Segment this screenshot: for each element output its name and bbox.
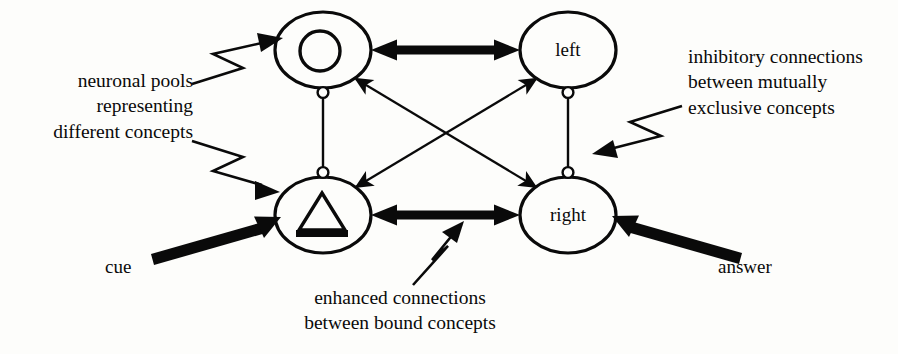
pointer-enhanced [413,221,464,285]
node-label-left: left [528,38,608,63]
connection-triangle-right-excitatory[interactable] [371,205,520,226]
connection-moon-triangle-inhibitory[interactable] [318,87,329,178]
connection-moon-left-excitatory[interactable] [371,40,520,61]
pointer-different-concepts [192,141,280,200]
pointer-neuronal-pools [192,33,283,84]
node-label-right: right [528,203,608,228]
label-answer: answer [718,255,818,280]
node-outline [275,177,371,253]
annotation-inhibitory-connections: inhibitory connections between mutually … [688,44,898,120]
inhibitory-terminal-icon [318,87,329,98]
node-moon-pool[interactable] [275,12,371,88]
pointer-inhibitory [592,106,682,158]
node-triangle-pool[interactable] [275,177,371,253]
node-outline [275,12,371,88]
annotation-enhanced-connections: enhanced connections between bound conce… [250,285,550,336]
annotation-neuronal-pools: neuronal pools representing different co… [8,68,193,144]
connection-left-right-inhibitory[interactable] [563,87,574,178]
figure-canvas: left right neuronal pools representing d… [0,0,898,354]
label-cue: cue [105,255,175,280]
inhibitory-terminal-icon [318,167,329,178]
inhibitory-terminal-icon [563,87,574,98]
inhibitory-terminal-icon [563,167,574,178]
